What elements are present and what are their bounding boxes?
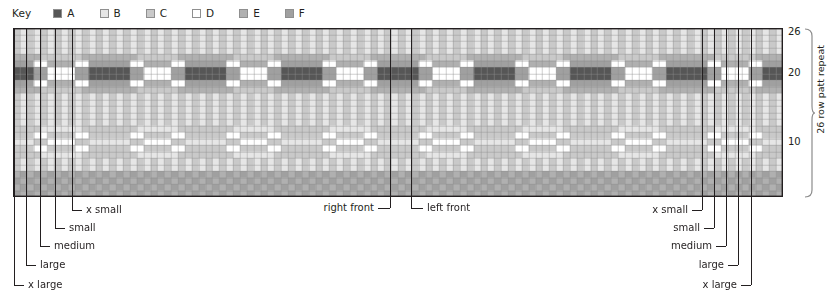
size-marker-stub-right-small [704, 228, 714, 229]
key-swatch-b [100, 9, 109, 18]
size-marker-stub-left-large [26, 265, 36, 266]
size-label-right-medium: medium [671, 241, 712, 251]
key-entry-e: E [239, 8, 260, 19]
key-swatch-f [285, 9, 294, 18]
row-number-10: 10 [788, 137, 801, 147]
row-number-26: 26 [788, 27, 801, 37]
size-marker-line-left-small [55, 28, 56, 228]
size-label-left-large: large [40, 260, 65, 270]
key-label-a: A [67, 8, 74, 19]
size-marker-line-right-medium [726, 28, 727, 246]
key-label-e: E [253, 8, 260, 19]
size-label-left-medium: medium [54, 241, 95, 251]
size-marker-stub-left-small [55, 228, 65, 229]
chart-grid-canvas [13, 28, 783, 197]
center-marker-stub-right-front [378, 208, 390, 209]
size-marker-line-left-medium [40, 28, 41, 246]
key-label-c: C [160, 8, 167, 19]
key-entry-b: B [100, 8, 121, 19]
row-repeat-label: 26 row patt repeat [816, 45, 826, 134]
size-marker-line-left-large [26, 28, 27, 265]
key-entry-d: D [192, 8, 214, 19]
size-marker-stub-right-large [728, 265, 738, 266]
size-label-right-x-large: x large [703, 280, 737, 290]
center-marker-line-left-front [411, 28, 412, 208]
center-label-left-front: left front [427, 203, 470, 213]
size-label-left-small: small [69, 223, 96, 233]
key-swatch-c [146, 9, 155, 18]
size-marker-line-right-x-small [702, 28, 703, 210]
size-marker-stub-left-x-large [14, 285, 24, 286]
size-marker-line-right-x-large [751, 28, 752, 285]
key-swatch-a [53, 9, 62, 18]
size-marker-stub-left-x-small [72, 210, 82, 211]
key-swatch-e [239, 9, 248, 18]
knitting-chart-page: Key A B C D E F x smallsmallmediumlar [0, 0, 836, 302]
key-label-d: D [206, 8, 214, 19]
center-marker-line-right-front [390, 28, 391, 208]
size-label-left-x-large: x large [28, 280, 62, 290]
size-marker-stub-left-medium [40, 246, 50, 247]
key-title: Key [12, 8, 31, 19]
key-entry-f: F [285, 8, 305, 19]
center-label-right-front: right front [324, 203, 374, 213]
key-label-b: B [114, 8, 121, 19]
size-marker-stub-right-x-large [741, 285, 751, 286]
size-marker-line-right-small [714, 28, 715, 228]
size-label-right-large: large [699, 260, 724, 270]
size-marker-stub-right-medium [716, 246, 726, 247]
size-marker-line-right-large [738, 28, 739, 265]
size-label-left-x-small: x small [86, 205, 122, 215]
key-label-f: F [299, 8, 305, 19]
size-label-right-x-small: x small [652, 205, 688, 215]
row-number-20: 20 [788, 68, 801, 78]
size-marker-line-left-x-small [72, 28, 73, 210]
size-label-right-small: small [673, 223, 700, 233]
key-entry-a: A [53, 8, 74, 19]
size-marker-stub-right-x-small [692, 210, 702, 211]
colorwork-chart [13, 28, 783, 197]
key-swatch-d [192, 9, 201, 18]
center-marker-stub-left-front [411, 208, 423, 209]
key-entry-c: C [146, 8, 167, 19]
chart-key: Key A B C D E F [12, 5, 330, 21]
size-marker-line-left-x-large [14, 28, 15, 285]
